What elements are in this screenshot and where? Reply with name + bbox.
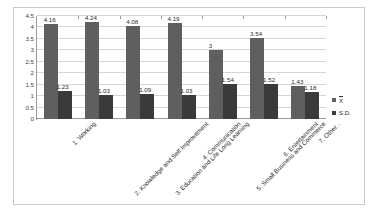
bar-group — [209, 16, 237, 119]
bar-sd[interactable] — [58, 91, 72, 119]
data-label-mean: 4.16 — [44, 16, 56, 23]
data-label-sd: 1.09 — [139, 86, 151, 93]
y-tick-label: 2.5 — [14, 59, 34, 65]
data-label-sd: 1.23 — [57, 83, 69, 90]
y-tick-label: 0 — [14, 116, 34, 122]
x-tick — [202, 16, 203, 19]
legend-swatch — [332, 98, 336, 102]
category-label: 6. Entertainment — [282, 120, 320, 158]
bar-group — [85, 16, 113, 119]
bar-mean[interactable] — [291, 86, 305, 119]
data-label-sd: 1.03 — [98, 87, 110, 94]
y-tick-label: 4 — [14, 24, 34, 30]
bar-mean[interactable] — [250, 38, 264, 119]
bar-group — [126, 16, 154, 119]
data-label-mean: 4.19 — [168, 15, 180, 22]
x-axis-category-labels: 1. Working2. Knowledge and Self Improvem… — [37, 120, 326, 206]
y-tick-label: 2 — [14, 70, 34, 76]
data-label-mean: 3.54 — [250, 30, 262, 37]
legend-swatch — [332, 111, 336, 115]
legend-label: S.D. — [339, 109, 351, 116]
bar-sd[interactable] — [305, 92, 319, 119]
y-tick-label: 1 — [14, 93, 34, 99]
category-label: 5. Small Business and Commerce — [255, 120, 327, 192]
category-label: 3. Education and Life Long Learning — [174, 120, 251, 197]
chart-frame: 00.511.522.533.544.5 4.161.234.241.034.0… — [13, 7, 365, 205]
x-tick — [161, 16, 162, 19]
plot-area: 4.161.234.241.034.081.094.191.0331.543.5… — [37, 16, 326, 119]
x-tick — [78, 16, 79, 19]
y-axis-tick-labels: 00.511.522.533.544.5 — [14, 16, 34, 119]
x-tick — [120, 16, 121, 19]
bar-sd[interactable] — [99, 95, 113, 119]
data-label-mean: 1.43 — [291, 78, 303, 85]
bar-group — [168, 16, 196, 119]
x-tick — [285, 16, 286, 19]
data-label-sd: 1.03 — [181, 87, 193, 94]
bar-sd[interactable] — [264, 84, 278, 119]
bar-sd[interactable] — [140, 94, 154, 119]
legend-item[interactable]: X — [332, 93, 368, 106]
bar-sd[interactable] — [223, 84, 237, 119]
legend-item[interactable]: S.D. — [332, 106, 368, 119]
data-label-mean: 4.08 — [126, 18, 138, 25]
bar-group — [44, 16, 72, 119]
bar-sd[interactable] — [182, 95, 196, 119]
data-label-mean: 4.24 — [85, 14, 97, 21]
category-label: 2. Knowledge and Self Improvement — [133, 120, 210, 197]
data-label-sd: 1.54 — [222, 76, 234, 83]
data-label-mean: 3 — [209, 42, 212, 49]
bar-mean[interactable] — [85, 22, 99, 119]
y-tick-label: 4.5 — [14, 13, 34, 19]
y-tick-label: 0.5 — [14, 105, 34, 111]
y-tick-label: 1.5 — [14, 82, 34, 88]
bar-mean[interactable] — [209, 50, 223, 119]
chart-legend: XS.D. — [332, 93, 368, 119]
y-tick-label: 3 — [14, 47, 34, 53]
x-tick — [326, 16, 327, 19]
x-tick — [243, 16, 244, 19]
category-label: 1. Working — [70, 120, 96, 146]
bar-mean[interactable] — [44, 24, 58, 119]
bar-group — [291, 16, 319, 119]
legend-label: X — [339, 96, 343, 104]
data-label-sd: 1.52 — [263, 76, 275, 83]
bar-mean[interactable] — [126, 26, 140, 119]
data-label-sd: 1.18 — [304, 84, 316, 91]
y-tick-label: 3.5 — [14, 36, 34, 42]
bar-mean[interactable] — [168, 23, 182, 119]
